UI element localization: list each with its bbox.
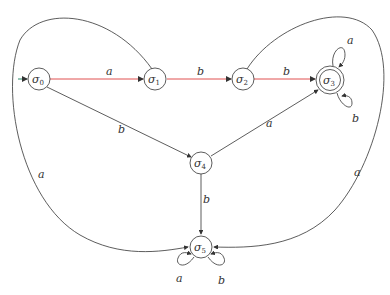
loop-s5-a (177, 253, 194, 265)
state-s3-accepting: σ3 (316, 66, 344, 94)
label-s0-s4: b (118, 123, 125, 136)
state-s0: σ0 (28, 68, 50, 90)
edge-s0-s4 (47, 87, 191, 157)
loop-s3-b (337, 93, 352, 107)
state-s2: σ2 (232, 68, 254, 90)
loop-s3-a (333, 48, 345, 67)
label-loop-s5-b: b (218, 274, 225, 287)
loop-s5-b (208, 253, 225, 265)
state-s5: σ5 (190, 236, 212, 258)
label-loop-s3-a: a (347, 34, 354, 47)
automaton-diagram: a b b b a b a a a b a b σ0 σ1 σ2 σ3 σ4 σ… (0, 0, 390, 295)
state-s4: σ4 (190, 152, 212, 174)
label-s4-s5: b (203, 193, 210, 206)
label-s2-s5: a (354, 166, 361, 179)
label-s0-s1: a (106, 65, 113, 78)
label-s4-s3: a (266, 117, 273, 130)
label-s2-s3: b (283, 65, 290, 78)
edge-s4-s3 (211, 90, 318, 156)
label-s1-s5: a (38, 168, 45, 181)
state-s1: σ1 (144, 68, 166, 90)
label-loop-s5-a: a (176, 272, 183, 285)
label-s1-s2: b (197, 65, 204, 78)
label-loop-s3-b: b (352, 112, 359, 125)
edge-s1-s5 (13, 18, 189, 252)
edge-s2-s5 (214, 17, 384, 247)
